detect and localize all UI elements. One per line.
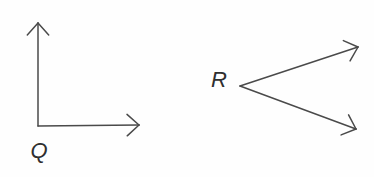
angle-r-label: R bbox=[211, 69, 227, 91]
angle-R-ray-lower-right bbox=[240, 86, 356, 129]
angle-Q-ray-up-arrowhead bbox=[38, 23, 49, 35]
angle-R-ray-lower-right-arrowhead bbox=[341, 129, 356, 135]
angle-R-ray-upper-right-arrowhead bbox=[343, 41, 358, 47]
angle-q-label: Q bbox=[30, 140, 47, 162]
angle-r-figure bbox=[240, 41, 358, 135]
angle-Q-ray-right-arrowhead bbox=[127, 125, 139, 136]
angle-R-ray-upper-right bbox=[240, 47, 358, 86]
geometry-svg bbox=[0, 0, 374, 177]
diagram-canvas: Q R bbox=[0, 0, 374, 177]
angle-Q-ray-right-arrowhead bbox=[127, 114, 139, 125]
angle-q-figure bbox=[27, 23, 139, 136]
angle-Q-ray-right bbox=[38, 125, 139, 126]
angle-Q-ray-up-arrowhead bbox=[27, 23, 38, 35]
